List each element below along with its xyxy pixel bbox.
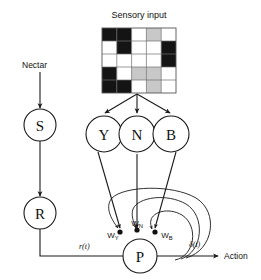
node-b-label: B: [166, 127, 176, 143]
grid-cell-0-1: [117, 28, 132, 41]
grid-cell-4-0: [102, 80, 117, 93]
grid-cell-2-1: [117, 54, 132, 67]
grid-cell-0-3: [146, 28, 161, 41]
node-n-label: N: [132, 127, 143, 143]
node-n[interactable]: N: [119, 116, 155, 152]
action-label: Action: [224, 251, 248, 261]
grid-cell-1-1: [117, 41, 132, 54]
grid-cell-4-2: [132, 80, 147, 93]
grid-cell-2-3: [146, 54, 161, 67]
node-r[interactable]: R: [24, 197, 56, 229]
sensory-input-grid: [102, 28, 176, 93]
node-s-label: S: [36, 118, 44, 134]
node-s[interactable]: S: [24, 109, 56, 141]
node-y[interactable]: Y: [86, 116, 122, 152]
nectar-label: Nectar: [22, 60, 47, 70]
grid-cell-4-3: [146, 80, 161, 93]
node-r-label: R: [35, 206, 45, 222]
synapse-dot-wb: [152, 229, 157, 234]
grid-cell-3-1: [117, 67, 132, 80]
sensory-input-title: Sensory input: [111, 10, 167, 20]
grid-cell-2-4: [161, 54, 176, 67]
node-y-label: Y: [99, 127, 110, 143]
figure-canvas: S R Y N B P Sensory input Nectar Action …: [0, 0, 261, 280]
grid-cell-1-0: [102, 41, 117, 54]
grid-cell-2-0: [102, 54, 117, 67]
delta-signal-label: δ(t): [189, 240, 201, 249]
weight-label-wb: WB: [161, 231, 173, 241]
reward-signal-label: r(t): [79, 242, 90, 251]
node-p[interactable]: P: [123, 239, 157, 273]
diagram-svg: S R Y N B P Sensory input Nectar Action …: [0, 0, 261, 280]
grid-cell-1-3: [146, 41, 161, 54]
weight-label-wn: WN: [131, 219, 143, 229]
node-b[interactable]: B: [153, 116, 189, 152]
grid-cell-3-4: [161, 67, 176, 80]
synapse-dot-wy: [117, 229, 122, 234]
weight-wy-sub: Y: [115, 235, 119, 241]
weight-label-wy: WY: [107, 231, 119, 241]
grid-cell-1-2: [132, 41, 147, 54]
grid-cell-3-0: [102, 67, 117, 80]
weight-wb-sub: B: [169, 235, 173, 241]
grid-cell-1-4: [161, 41, 176, 54]
weight-wn-sub: N: [139, 223, 143, 229]
grid-cell-0-2: [132, 28, 147, 41]
grid-cell-4-1: [117, 80, 132, 93]
grid-cell-2-2: [132, 54, 147, 67]
grid-cell-3-2: [132, 67, 147, 80]
grid-cell-3-3: [146, 67, 161, 80]
edge-grid-to-b: [137, 94, 170, 113]
grid-cell-0-0: [102, 28, 117, 41]
grid-cell-0-4: [161, 28, 176, 41]
edge-y-to-wy: [98, 152, 120, 228]
grid-cell-4-4: [161, 80, 176, 93]
node-p-label: P: [136, 249, 144, 265]
edge-grid-to-y: [105, 94, 137, 113]
